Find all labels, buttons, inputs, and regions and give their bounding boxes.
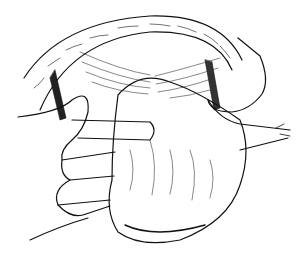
illustration: [0, 0, 306, 261]
line-drawing: [0, 0, 306, 261]
rim-inner: [40, 32, 232, 110]
organ: [109, 78, 246, 243]
